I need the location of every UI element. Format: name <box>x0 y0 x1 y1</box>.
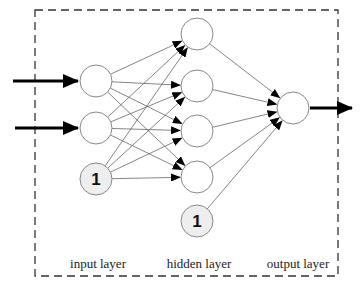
connection-arrow <box>110 88 181 123</box>
connection-arrow <box>112 177 180 178</box>
node-circle <box>181 161 213 193</box>
hidden-layer-label: hidden layer <box>167 256 232 271</box>
input-node-i1 <box>80 65 112 97</box>
connection-arrow <box>213 112 277 127</box>
node-circle <box>181 115 213 147</box>
neural-network-diagram: 11 input layer hidden layer output layer <box>0 0 363 292</box>
node-circle <box>80 112 112 144</box>
connection-arrow <box>111 41 182 74</box>
hidden-node-h3 <box>181 115 213 147</box>
output-node-o1 <box>277 92 309 124</box>
bias-node-ib: 1 <box>80 163 112 195</box>
connection-arrow <box>108 98 185 169</box>
input-layer-label: input layer <box>70 256 127 271</box>
connection-arrow <box>213 90 277 105</box>
hidden-node-h2 <box>181 70 213 102</box>
bias-value: 1 <box>91 170 100 189</box>
node-circle <box>80 65 112 97</box>
node-circle <box>181 70 213 102</box>
connection-arrow <box>210 44 280 98</box>
hidden-node-h1 <box>181 18 213 50</box>
bias-value: 1 <box>192 212 201 231</box>
nodes: 11 <box>80 18 309 237</box>
connection-arrow <box>112 82 180 85</box>
connection-arrow <box>105 48 187 166</box>
layer-labels: input layer hidden layer output layer <box>70 256 330 271</box>
connection-arrow <box>207 121 282 209</box>
hidden-node-h4 <box>181 161 213 193</box>
node-circle <box>181 18 213 50</box>
output-layer-label: output layer <box>267 256 330 271</box>
input-node-i2 <box>80 112 112 144</box>
node-circle <box>277 92 309 124</box>
bias-node-hb: 1 <box>181 205 213 237</box>
